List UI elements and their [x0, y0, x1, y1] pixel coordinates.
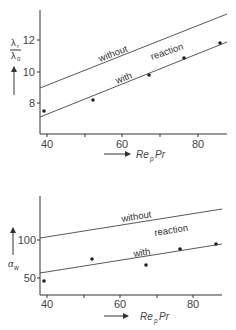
- svg-text:w: w: [13, 264, 19, 271]
- top-line-without-reaction: [40, 14, 227, 88]
- bottom-data-point: [214, 242, 218, 246]
- svg-text:Pr: Pr: [159, 311, 170, 322]
- svg-text:λ: λ: [11, 37, 16, 48]
- svg-text:Re: Re: [136, 149, 149, 160]
- svg-text:λ: λ: [11, 50, 16, 61]
- svg-text:p: p: [149, 155, 154, 163]
- svg-text:p: p: [153, 317, 158, 325]
- top-xtick-40: 40: [41, 138, 53, 150]
- top-x-label: Re p Pr: [104, 149, 166, 163]
- bottom-data-point: [144, 263, 148, 267]
- svg-text:Pr: Pr: [155, 149, 166, 160]
- svg-text:Re: Re: [140, 311, 153, 322]
- bottom-line-with-reaction: [40, 244, 222, 273]
- svg-text:0: 0: [17, 56, 21, 62]
- svg-text:r: r: [17, 43, 19, 49]
- figure: 12 10 8 40 60 80 λ r λ 0 Re p Pr: [0, 0, 236, 330]
- top-data-point: [91, 98, 95, 102]
- bottom-xtick-40: 40: [41, 298, 53, 310]
- bottom-label-without: without: [120, 208, 153, 224]
- bottom-x-label: Re p Pr: [104, 311, 170, 325]
- top-xtick-80: 80: [192, 138, 204, 150]
- bottom-ytick-50: 50: [24, 272, 36, 284]
- top-ytick-8: 8: [29, 97, 35, 109]
- top-data-point: [182, 56, 186, 60]
- bottom-data-point: [178, 247, 182, 251]
- bottom-data-point: [90, 257, 94, 261]
- bottom-chart: 100 50 40 60 80 α w Re p Pr without reac…: [8, 196, 222, 325]
- top-data-point: [147, 73, 151, 77]
- top-data-point: [218, 41, 222, 45]
- top-xtick-60: 60: [116, 138, 128, 150]
- top-label-reaction: reaction: [149, 40, 185, 61]
- top-ytick-12: 12: [23, 34, 35, 46]
- bottom-xtick-60: 60: [114, 298, 126, 310]
- top-y-label: λ r λ 0: [10, 37, 21, 95]
- bottom-label-reaction: reaction: [154, 222, 189, 238]
- bottom-label-with: with: [132, 245, 151, 259]
- bottom-xtick-80: 80: [187, 298, 199, 310]
- top-label-without: without: [96, 43, 129, 65]
- top-label-with: with: [113, 70, 134, 87]
- bottom-ytick-100: 100: [18, 234, 36, 246]
- top-ytick-10: 10: [23, 66, 35, 78]
- top-chart: 12 10 8 40 60 80 λ r λ 0 Re p Pr: [10, 10, 227, 163]
- top-line-with-reaction: [40, 42, 227, 117]
- top-data-point: [42, 109, 46, 113]
- bottom-data-point: [42, 279, 46, 283]
